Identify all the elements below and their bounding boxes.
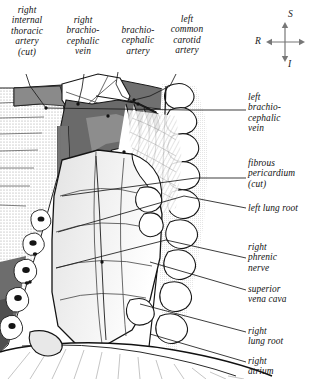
label-brachiocephalic-artery: brachio- cephalic artery xyxy=(112,25,164,56)
compass-label-superior: S xyxy=(288,8,293,19)
label-right-phrenic-nerve: right phrenic nerve xyxy=(248,242,314,273)
label-left-lung-root: left lung root xyxy=(248,203,314,213)
label-left-common-carotid-artery: left common carotid artery xyxy=(160,14,214,56)
label-right-brachiocephalic-vein: right brachio- cephalic vein xyxy=(54,15,112,57)
label-right-internal-thoracic-artery: right internal thoracic artery (cut) xyxy=(0,5,54,57)
label-superior-vena-cava: superior vena cava xyxy=(248,284,314,305)
compass-label-inferior: I xyxy=(288,58,291,69)
label-fibrous-pericardium: fibrous pericardium (cut) xyxy=(248,158,314,189)
label-right-lung-root: right lung root xyxy=(248,326,314,347)
compass-label-right: R xyxy=(255,35,261,46)
label-left-brachiocephalic-vein: left brachio- cephalic vein xyxy=(248,92,314,134)
label-right-atrium: right atrium xyxy=(248,356,314,377)
